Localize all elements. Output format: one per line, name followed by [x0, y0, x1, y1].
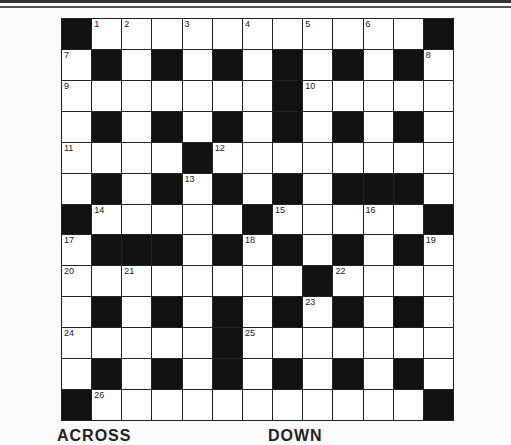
grid-cell[interactable]: 18	[243, 235, 272, 265]
grid-cell[interactable]	[303, 112, 332, 142]
grid-cell[interactable]: 3	[183, 19, 212, 49]
grid-cell[interactable]	[424, 266, 453, 296]
grid-cell[interactable]: 19	[424, 235, 453, 265]
grid-cell[interactable]	[122, 81, 151, 111]
grid-cell[interactable]	[424, 328, 453, 358]
grid-cell[interactable]	[364, 112, 393, 142]
grid-cell[interactable]	[183, 266, 212, 296]
grid-cell[interactable]	[394, 266, 423, 296]
grid-cell[interactable]	[92, 328, 121, 358]
grid-cell[interactable]	[424, 112, 453, 142]
grid-cell[interactable]: 23	[303, 297, 332, 327]
grid-cell[interactable]	[303, 205, 332, 235]
grid-cell[interactable]	[183, 81, 212, 111]
grid-cell[interactable]	[183, 390, 212, 420]
grid-cell[interactable]	[273, 328, 302, 358]
grid-cell[interactable]	[213, 19, 242, 49]
grid-cell[interactable]	[243, 143, 272, 173]
grid-cell[interactable]	[183, 50, 212, 80]
grid-cell[interactable]	[303, 328, 332, 358]
grid-cell[interactable]	[243, 359, 272, 389]
grid-cell[interactable]	[273, 390, 302, 420]
grid-cell[interactable]	[152, 390, 181, 420]
grid-cell[interactable]	[62, 112, 91, 142]
grid-cell[interactable]	[364, 359, 393, 389]
grid-cell[interactable]: 11	[62, 143, 91, 173]
grid-cell[interactable]	[152, 143, 181, 173]
grid-cell[interactable]: 25	[243, 328, 272, 358]
grid-cell[interactable]	[92, 266, 121, 296]
grid-cell[interactable]: 9	[62, 81, 91, 111]
grid-cell[interactable]	[333, 81, 362, 111]
grid-cell[interactable]: 6	[364, 19, 393, 49]
grid-cell[interactable]	[213, 205, 242, 235]
grid-cell[interactable]	[303, 174, 332, 204]
grid-cell[interactable]	[333, 19, 362, 49]
grid-cell[interactable]	[364, 297, 393, 327]
grid-cell[interactable]	[303, 50, 332, 80]
grid-cell[interactable]	[152, 205, 181, 235]
grid-cell[interactable]	[122, 328, 151, 358]
grid-cell[interactable]	[364, 81, 393, 111]
grid-cell[interactable]: 10	[303, 81, 332, 111]
grid-cell[interactable]	[364, 50, 393, 80]
grid-cell[interactable]	[303, 235, 332, 265]
grid-cell[interactable]: 7	[62, 50, 91, 80]
grid-cell[interactable]: 14	[92, 205, 121, 235]
grid-cell[interactable]	[273, 19, 302, 49]
grid-cell[interactable]	[424, 359, 453, 389]
grid-cell[interactable]	[394, 328, 423, 358]
grid-cell[interactable]	[333, 390, 362, 420]
grid-cell[interactable]	[122, 143, 151, 173]
grid-cell[interactable]	[122, 112, 151, 142]
grid-cell[interactable]	[303, 390, 332, 420]
grid-cell[interactable]	[122, 174, 151, 204]
grid-cell[interactable]	[364, 266, 393, 296]
grid-cell[interactable]	[394, 143, 423, 173]
grid-cell[interactable]	[243, 390, 272, 420]
grid-cell[interactable]	[62, 359, 91, 389]
grid-cell[interactable]	[364, 328, 393, 358]
grid-cell[interactable]	[424, 174, 453, 204]
grid-cell[interactable]	[62, 297, 91, 327]
grid-cell[interactable]	[424, 81, 453, 111]
grid-cell[interactable]	[152, 266, 181, 296]
grid-cell[interactable]	[183, 235, 212, 265]
grid-cell[interactable]	[333, 328, 362, 358]
grid-cell[interactable]: 22	[333, 266, 362, 296]
grid-cell[interactable]: 17	[62, 235, 91, 265]
grid-cell[interactable]	[243, 50, 272, 80]
grid-cell[interactable]	[122, 359, 151, 389]
grid-cell[interactable]	[122, 297, 151, 327]
grid-cell[interactable]	[394, 81, 423, 111]
grid-cell[interactable]	[424, 143, 453, 173]
grid-cell[interactable]	[213, 81, 242, 111]
grid-cell[interactable]	[183, 359, 212, 389]
grid-cell[interactable]	[333, 205, 362, 235]
grid-cell[interactable]	[394, 19, 423, 49]
grid-cell[interactable]: 1	[92, 19, 121, 49]
grid-cell[interactable]: 24	[62, 328, 91, 358]
grid-cell[interactable]	[364, 235, 393, 265]
grid-cell[interactable]	[243, 297, 272, 327]
grid-cell[interactable]: 26	[92, 390, 121, 420]
grid-cell[interactable]: 2	[122, 19, 151, 49]
grid-cell[interactable]	[243, 81, 272, 111]
grid-cell[interactable]	[273, 266, 302, 296]
grid-cell[interactable]: 20	[62, 266, 91, 296]
grid-cell[interactable]	[122, 390, 151, 420]
grid-cell[interactable]: 13	[183, 174, 212, 204]
grid-cell[interactable]	[303, 143, 332, 173]
grid-cell[interactable]	[183, 205, 212, 235]
grid-cell[interactable]	[424, 297, 453, 327]
grid-cell[interactable]	[333, 143, 362, 173]
grid-cell[interactable]	[92, 81, 121, 111]
grid-cell[interactable]: 21	[122, 266, 151, 296]
grid-cell[interactable]	[183, 297, 212, 327]
grid-cell[interactable]	[213, 390, 242, 420]
grid-cell[interactable]	[183, 112, 212, 142]
grid-cell[interactable]: 15	[273, 205, 302, 235]
grid-cell[interactable]	[62, 174, 91, 204]
grid-cell[interactable]	[394, 205, 423, 235]
grid-cell[interactable]	[303, 359, 332, 389]
